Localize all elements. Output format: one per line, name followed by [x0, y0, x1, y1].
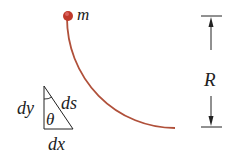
ds-label: ds [61, 93, 77, 113]
radius-label: R [203, 69, 216, 90]
angle-arc [44, 97, 52, 99]
down-arrowhead-icon [209, 116, 214, 126]
dx-label: dx [48, 134, 65, 154]
dy-label: dy [17, 98, 34, 118]
curved-track [67, 18, 175, 128]
diagram-canvas: m R dy ds dx θ [0, 0, 234, 166]
up-arrowhead-icon [209, 17, 214, 27]
mass-label: m [77, 5, 89, 24]
mass-ball-highlight [65, 12, 69, 16]
theta-label: θ [46, 110, 54, 129]
